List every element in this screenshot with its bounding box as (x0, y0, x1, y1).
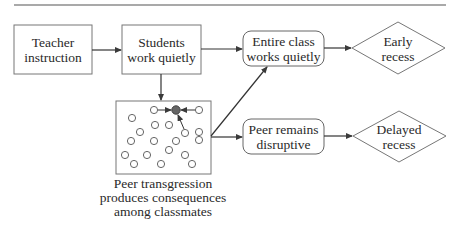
students-label-line1: Students (122, 35, 201, 50)
delayed-recess-label-line1: Delayed (369, 122, 429, 137)
caption-line3: among classmates (88, 205, 238, 219)
peer-remains-label-line1: Peer remains (243, 122, 324, 137)
early-recess-label-line2: recess (368, 49, 428, 64)
delayed-recess-label: Delayed recess (369, 122, 429, 152)
entire-class-label: Entire class works quietly (243, 34, 324, 64)
entire-class-label-line2: works quietly (243, 49, 324, 64)
early-recess-label-line1: Early (368, 34, 428, 49)
students-work-quietly-label: Students work quietly (122, 35, 201, 65)
caption-line1: Peer transgression (88, 177, 238, 191)
teacher-label-line1: Teacher (14, 35, 92, 50)
delayed-recess-label-line2: recess (369, 137, 429, 152)
transgressing-peer-circle (172, 106, 180, 114)
teacher-label-line2: instruction (14, 50, 92, 65)
entire-class-label-line1: Entire class (243, 34, 324, 49)
caption-line2: produces consequences (88, 191, 238, 205)
peer-remains-label-line2: disruptive (243, 137, 324, 152)
students-label-line2: work quietly (122, 50, 201, 65)
peer-remains-label: Peer remains disruptive (243, 122, 324, 152)
teacher-instruction-label: Teacher instruction (14, 35, 92, 65)
early-recess-label: Early recess (368, 34, 428, 64)
classroom-caption: Peer transgression produces consequences… (88, 177, 238, 219)
